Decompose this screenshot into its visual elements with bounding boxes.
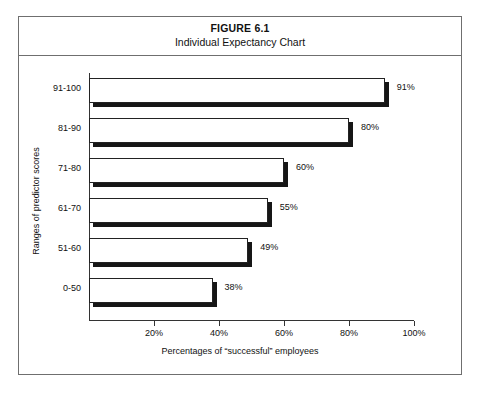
y-axis-tick-label: 61-70 — [19, 203, 81, 213]
figure-title-band: FIGURE 6.1 Individual Expectancy Chart — [19, 17, 461, 56]
bar-group: 80% — [89, 118, 414, 158]
x-axis-tick-label: 40% — [199, 328, 239, 338]
bar — [89, 278, 213, 303]
x-axis-tick-label: 60% — [264, 328, 304, 338]
figure-number: FIGURE 6.1 — [19, 17, 461, 35]
x-axis-tick-label: 80% — [329, 328, 369, 338]
figure-subtitle: Individual Expectancy Chart — [19, 35, 461, 49]
x-axis-tick-label: 20% — [134, 328, 174, 338]
y-axis-tick-label: 71-80 — [19, 163, 81, 173]
bar — [89, 198, 268, 223]
bar-group: 60% — [89, 158, 414, 198]
bar-value-label: 55% — [280, 202, 298, 212]
x-axis-title: Percentages of “successful” employees — [19, 346, 461, 356]
bar-value-label: 80% — [361, 122, 379, 132]
bar — [89, 158, 284, 183]
x-axis-tick — [154, 321, 155, 326]
y-axis-tick-label: 81-90 — [19, 123, 81, 133]
x-axis-tick — [414, 321, 415, 326]
x-axis-tick — [284, 321, 285, 326]
y-axis-tick-label: 91-100 — [19, 83, 81, 93]
x-axis-tick — [219, 321, 220, 326]
chart-body: Ranges of predictor scores 91-10091%81-9… — [19, 56, 461, 376]
bar-value-label: 38% — [225, 282, 243, 292]
x-axis-line — [89, 320, 414, 321]
y-axis-tick-label: 51-60 — [19, 243, 81, 253]
x-axis-tick — [349, 321, 350, 326]
bar-group: 38% — [89, 278, 414, 318]
y-axis-title: Ranges of predictor scores — [31, 116, 41, 286]
y-axis-tick-label: 0-50 — [19, 283, 81, 293]
bar — [89, 118, 349, 143]
bar-group: 55% — [89, 198, 414, 238]
bar-value-label: 60% — [296, 162, 314, 172]
x-axis-tick-label: 100% — [394, 328, 434, 338]
figure-frame: FIGURE 6.1 Individual Expectancy Chart R… — [18, 16, 462, 375]
bar — [89, 78, 385, 103]
bar-value-label: 49% — [260, 242, 278, 252]
plot-area: 91-10091%81-9080%71-8060%61-7055%51-6049… — [89, 73, 414, 321]
bar — [89, 238, 248, 263]
bar-group: 49% — [89, 238, 414, 278]
bar-value-label: 91% — [397, 82, 415, 92]
bar-group: 91% — [89, 78, 414, 118]
